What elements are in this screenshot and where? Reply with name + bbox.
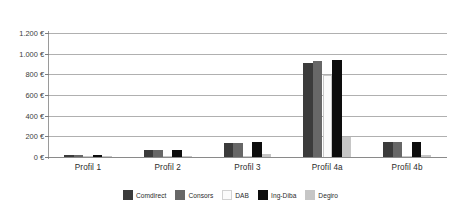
- legend-label: Comdirect: [136, 192, 167, 199]
- legend-item[interactable]: Ing-Diba: [258, 190, 296, 200]
- bar: [262, 154, 272, 157]
- legend-item[interactable]: Consors: [175, 190, 213, 200]
- y-axis-tick-label: 0 €: [0, 153, 44, 162]
- bar: [243, 156, 253, 157]
- bar: [224, 143, 234, 157]
- y-axis-tick-label: 600 €: [0, 91, 44, 100]
- bar: [153, 150, 163, 157]
- bar: [412, 142, 422, 157]
- bar: [144, 150, 154, 157]
- legend-swatch-icon: [175, 190, 185, 200]
- bar: [93, 155, 103, 157]
- bar-group: [144, 33, 192, 157]
- x-axis-label: Profil 4b: [367, 163, 447, 172]
- legend-swatch-icon: [258, 190, 268, 200]
- legend-swatch-icon: [222, 190, 232, 200]
- bar: [303, 63, 313, 157]
- bar-chart: 0 €200 €400 €600 €800 €1.000 €1.200 € Pr…: [0, 0, 461, 217]
- bar-group: [64, 33, 112, 157]
- y-axis-tick-label: 200 €: [0, 132, 44, 141]
- legend-label: Ing-Diba: [271, 192, 296, 199]
- bar: [182, 156, 192, 157]
- x-axis-label: Profil 2: [128, 163, 208, 172]
- legend-item[interactable]: Comdirect: [123, 190, 167, 200]
- legend-label: Degiro: [318, 192, 338, 199]
- x-axis-label: Profil 3: [208, 163, 288, 172]
- x-axis-label: Profil 4a: [287, 163, 367, 172]
- bar-group: [303, 33, 351, 157]
- gridline: [48, 157, 447, 158]
- bar: [393, 142, 403, 157]
- chart-legend: ComdirectConsorsDABIng-DibaDegiro: [0, 190, 461, 200]
- bar: [383, 142, 393, 157]
- bar: [83, 156, 93, 157]
- legend-label: DAB: [235, 192, 249, 199]
- y-axis-tick-label: 400 €: [0, 111, 44, 120]
- bar: [323, 75, 333, 157]
- legend-label: Consors: [188, 192, 213, 199]
- legend-swatch-icon: [123, 190, 133, 200]
- bar: [313, 61, 323, 157]
- bar: [172, 150, 182, 157]
- bar: [64, 155, 74, 157]
- legend-item[interactable]: Degiro: [305, 190, 338, 200]
- bar: [332, 60, 342, 157]
- bar: [252, 142, 262, 157]
- bar: [402, 156, 412, 157]
- plot-area: [48, 33, 447, 157]
- y-axis-tick-label: 800 €: [0, 70, 44, 79]
- bar: [342, 137, 352, 157]
- bar-group: [383, 33, 431, 157]
- bar: [74, 155, 84, 157]
- x-axis-label: Profil 1: [48, 163, 128, 172]
- bar: [163, 156, 173, 157]
- bar: [233, 143, 243, 157]
- bar: [102, 156, 112, 157]
- bar: [421, 155, 431, 157]
- legend-item[interactable]: DAB: [222, 190, 249, 200]
- legend-swatch-icon: [305, 190, 315, 200]
- bar-group: [224, 33, 272, 157]
- y-axis-tick-label: 1.200 €: [0, 29, 44, 38]
- y-axis-tick-label: 1.000 €: [0, 49, 44, 58]
